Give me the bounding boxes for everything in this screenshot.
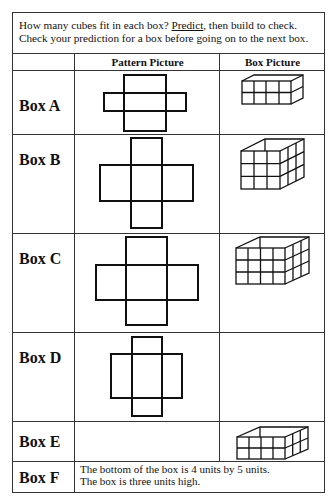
box-f-line2: The box is three units high.: [80, 475, 200, 487]
header-pattern-picture: Pattern Picture: [75, 55, 220, 70]
instruction-text: How many cubes fit in each box?: [19, 19, 172, 31]
divider: [13, 70, 324, 71]
box-f-description: The bottom of the box is 4 units by 5 un…: [80, 463, 270, 487]
box-f-line1: The bottom of the box is 4 units by 5 un…: [80, 463, 270, 475]
predict-emphasis: Predict: [172, 19, 204, 31]
instructions: How many cubes fit in each box? Predict,…: [13, 13, 324, 54]
row-label-box-e: Box E: [19, 433, 60, 451]
row-label-box-c: Box C: [19, 250, 61, 268]
divider: [74, 54, 75, 493]
box-e-picture: [13, 13, 14, 14]
row-label-box-d: Box D: [19, 349, 61, 367]
divider: [219, 54, 220, 461]
divider: [13, 233, 324, 234]
row-label-box-f: Box F: [19, 469, 59, 487]
instruction-text-2: Check your prediction for a box before g…: [19, 32, 308, 44]
instruction-text: , then build to check.: [203, 19, 297, 31]
divider: [13, 421, 324, 422]
divider: [13, 461, 324, 462]
row-label-box-b: Box B: [19, 151, 60, 169]
row-label-box-a: Box A: [19, 97, 60, 115]
worksheet: How many cubes fit in each box? Predict,…: [12, 12, 325, 493]
divider: [13, 134, 324, 135]
divider: [13, 332, 324, 333]
header-box-picture: Box Picture: [220, 55, 325, 70]
